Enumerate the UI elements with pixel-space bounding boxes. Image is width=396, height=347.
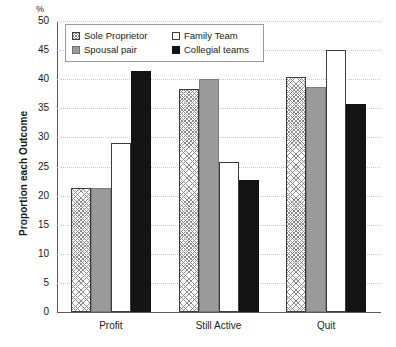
bar-spousal-quit (306, 87, 326, 312)
legend-item-spousal-pair: Spousal pair (72, 45, 164, 55)
legend-row: Sole Proprietor Family Team (72, 29, 256, 43)
gridline (57, 21, 380, 23)
legend-swatch-icon-collegial-teams (172, 46, 180, 54)
legend-swatch-icon-family-team (172, 32, 180, 40)
bar-family-still-active (219, 162, 239, 312)
legend-row: Spousal pair Collegial teams (72, 43, 256, 57)
y-axis-tick-label: 20 (7, 191, 49, 201)
y-axis-tick-label: 10 (7, 249, 49, 259)
legend-label: Family Team (184, 31, 238, 41)
y-axis-tick-label: 25 (7, 162, 49, 172)
bar-family-quit (326, 50, 346, 312)
bar-sole-still-active (179, 89, 199, 312)
bar-sole-quit (286, 77, 306, 312)
legend-label: Collegial teams (184, 45, 249, 55)
y-axis-tick-label: 15 (7, 220, 49, 230)
bar-collegial-quit (346, 104, 366, 312)
chart-legend: Sole Proprietor Family Team Spousal pair… (65, 24, 264, 62)
y-axis-tick-label: 5 (7, 278, 49, 288)
bar-family-profit (111, 143, 131, 312)
plot-area: 05101520253035404550 (57, 21, 380, 312)
y-axis-tick-label: 45 (7, 45, 49, 55)
x-axis-tick-label: Still Active (165, 320, 273, 331)
legend-item-family-team: Family Team (172, 31, 256, 41)
legend-swatch-icon-spousal-pair (72, 46, 80, 54)
y-axis-title: Proportion each Outcome (18, 89, 29, 259)
bar-collegial-still-active (239, 180, 259, 312)
x-axis-tick-label: Quit (272, 320, 380, 331)
bar-spousal-profit (91, 188, 111, 312)
bar-collegial-profit (131, 71, 151, 312)
legend-item-collegial-teams: Collegial teams (172, 45, 256, 55)
legend-swatch-icon-sole-proprietor (72, 32, 80, 40)
y-axis-tick-label: 30 (7, 132, 49, 142)
legend-label: Spousal pair (84, 45, 137, 55)
y-axis-tick-label: 50 (7, 16, 49, 26)
legend-item-sole-proprietor: Sole Proprietor (72, 31, 164, 41)
x-axis-tick-label: Profit (57, 320, 165, 331)
y-axis-tick-label: 40 (7, 74, 49, 84)
bar-sole-profit (71, 188, 91, 312)
bar-chart: % Proportion each Outcome 05101520253035… (0, 0, 396, 347)
legend-label: Sole Proprietor (84, 31, 147, 41)
bar-spousal-still-active (199, 79, 219, 312)
y-axis-tick-label: 0 (7, 307, 49, 317)
y-axis-unit-label: % (36, 4, 44, 14)
x-axis-line (57, 312, 381, 313)
y-axis-tick-label: 35 (7, 103, 49, 113)
